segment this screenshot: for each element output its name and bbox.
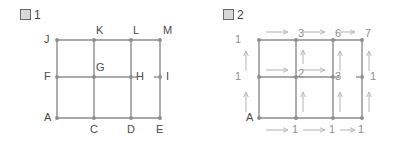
node-m0 bbox=[257, 75, 261, 79]
node-I bbox=[158, 75, 162, 79]
count-label-start-A: A bbox=[246, 112, 253, 123]
node-J bbox=[55, 38, 59, 42]
figure-2-panel: 2 bbox=[202, 0, 404, 146]
node-D bbox=[129, 116, 133, 120]
vertex-label-L: L bbox=[133, 25, 139, 36]
node-b1 bbox=[294, 116, 298, 120]
figure-pair-image: 1 bbox=[0, 0, 404, 146]
count-label-m2: 3 bbox=[335, 71, 341, 82]
node-b2 bbox=[331, 116, 335, 120]
vertex-label-I: I bbox=[166, 71, 169, 82]
count-label-m0: 1 bbox=[235, 71, 241, 82]
node-G bbox=[92, 75, 96, 79]
vertex-label-K: K bbox=[96, 25, 103, 36]
figure-1-edges bbox=[57, 40, 160, 118]
vertex-label-M: M bbox=[163, 25, 172, 36]
count-label-t3: 7 bbox=[365, 28, 371, 39]
node-H bbox=[129, 75, 133, 79]
node-b3 bbox=[360, 116, 364, 120]
node-K bbox=[92, 38, 96, 42]
node-M bbox=[158, 38, 162, 42]
figure-1-panel: 1 bbox=[0, 0, 202, 146]
count-label-t0: 1 bbox=[235, 34, 241, 45]
node-L bbox=[129, 38, 133, 42]
node-C bbox=[92, 116, 96, 120]
count-label-b3: 1 bbox=[358, 124, 364, 135]
node-F bbox=[55, 75, 59, 79]
vertex-label-G: G bbox=[96, 62, 105, 73]
figure-2-nodes bbox=[257, 38, 364, 120]
count-label-t2: 6 bbox=[335, 28, 341, 39]
figure-2-edges bbox=[259, 40, 362, 118]
figure-1-nodes bbox=[55, 38, 162, 120]
count-label-b1: 1 bbox=[292, 124, 298, 135]
count-label-b2: 1 bbox=[329, 124, 335, 135]
node-t3 bbox=[360, 38, 364, 42]
figure-1-canvas bbox=[0, 0, 202, 146]
vertex-label-E: E bbox=[156, 124, 163, 135]
figure-1-graph bbox=[0, 0, 202, 146]
vertex-label-A: A bbox=[44, 112, 51, 123]
vertex-label-H: H bbox=[136, 71, 144, 82]
count-label-t1: 3 bbox=[298, 28, 304, 39]
node-I-stub bbox=[154, 76, 158, 77]
vertex-label-F: F bbox=[44, 71, 51, 82]
figure-2-direction-arrows bbox=[246, 32, 369, 130]
count-label-m1: 2 bbox=[298, 68, 304, 79]
node-E bbox=[158, 116, 162, 120]
vertex-label-D: D bbox=[127, 124, 135, 135]
vertex-label-C: C bbox=[90, 124, 98, 135]
node-start-A bbox=[257, 116, 261, 120]
node-m3 bbox=[360, 75, 364, 79]
node-A bbox=[55, 116, 59, 120]
node-m3-stub bbox=[356, 76, 360, 77]
vertex-label-J: J bbox=[44, 34, 50, 45]
count-label-m3: 1 bbox=[370, 71, 376, 82]
node-t0 bbox=[257, 38, 261, 42]
